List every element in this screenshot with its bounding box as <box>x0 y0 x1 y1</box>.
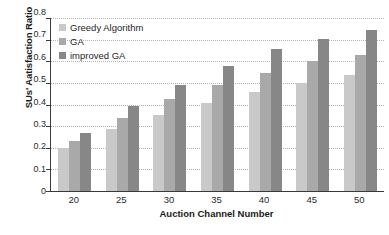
legend-label: Greedy Algorithm <box>70 22 143 33</box>
legend-item-greedy-algorithm: Greedy Algorithm <box>59 21 143 33</box>
y-axis-tick-labels: 0.8 0.7 0.6 0.5 0.4 0.3 0.2 0.1 0 <box>26 12 46 191</box>
bar <box>58 148 69 191</box>
y-tick-label: 0 <box>26 186 46 196</box>
bar <box>106 129 117 191</box>
bar <box>153 115 164 191</box>
bar <box>128 106 139 191</box>
y-tick-label: 0.1 <box>26 164 46 174</box>
bar-chart-figure: SUs' Aatisfaction Ratio 0.8 0.7 0.6 0.5 … <box>0 0 389 235</box>
chart-legend: Greedy Algorithm GA improved GA <box>59 21 143 61</box>
x-axis-line <box>51 191 384 192</box>
y-tick-label: 0.8 <box>26 7 46 17</box>
bar <box>212 85 223 191</box>
bar <box>175 85 186 191</box>
bar <box>201 103 212 191</box>
bar-group <box>146 18 194 191</box>
legend-item-ga: GA <box>59 35 143 47</box>
legend-swatch-icon <box>59 52 66 59</box>
bar-group <box>194 18 242 191</box>
y-tick-label: 0.6 <box>26 52 46 62</box>
bar <box>366 30 377 191</box>
bar-group <box>241 18 289 191</box>
bar <box>69 141 80 191</box>
y-tick-label: 0.5 <box>26 74 46 84</box>
legend-item-improved-ga: improved GA <box>59 49 143 61</box>
y-tick-label: 0.4 <box>26 97 46 107</box>
bar <box>344 75 355 191</box>
y-tick-label: 0.2 <box>26 141 46 151</box>
y-tick-label: 0.7 <box>26 29 46 39</box>
bar-group <box>289 18 337 191</box>
legend-label: improved GA <box>70 50 125 61</box>
x-axis-title: Auction Channel Number <box>50 208 383 219</box>
bar <box>117 118 128 191</box>
legend-swatch-icon <box>59 24 66 31</box>
y-tick-label: 0.3 <box>26 119 46 129</box>
bar <box>260 73 271 192</box>
legend-label: GA <box>70 36 84 47</box>
bar <box>249 92 260 191</box>
bar <box>271 49 282 191</box>
bar-group <box>336 18 384 191</box>
bar <box>307 61 318 191</box>
bar <box>355 55 366 191</box>
legend-swatch-icon <box>59 38 66 45</box>
bar <box>164 99 175 191</box>
bar <box>318 39 329 191</box>
bar <box>80 133 91 191</box>
bar <box>223 66 234 191</box>
y-tickmark <box>46 191 51 192</box>
bar <box>296 83 307 191</box>
